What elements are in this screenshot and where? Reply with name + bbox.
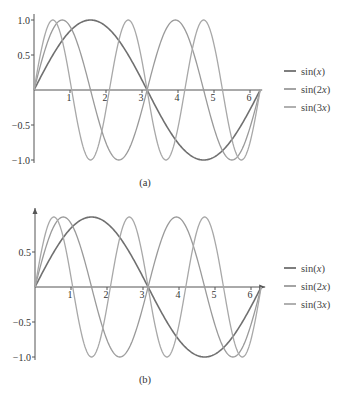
y-axis-arrow-icon — [33, 208, 38, 214]
legend-b: sin(x)sin(2x)sin(3x) — [284, 263, 331, 311]
legend-label: sin(x) — [301, 66, 325, 78]
x-tick-label: 2 — [104, 289, 109, 300]
y-tick-label: −0.5 — [13, 317, 31, 328]
x-tick-label: 3 — [140, 289, 145, 300]
y-tick-label: −0.5 — [12, 120, 30, 131]
legend-label: sin(x) — [301, 263, 325, 275]
y-tick-label: −1.0 — [12, 155, 30, 166]
chart-panel-b: 1234560.5−0.5−1.0 sin(x)sin(2x)sin(3x) (… — [13, 208, 331, 386]
caption-b: (b) — [139, 374, 152, 386]
x-tick-label: 4 — [175, 92, 180, 103]
x-tick-label: 6 — [247, 92, 252, 103]
x-tick-label: 1 — [68, 289, 73, 300]
x-tick-label: 4 — [176, 289, 181, 300]
x-tick-label: 6 — [248, 289, 253, 300]
legend-label: sin(2x) — [301, 84, 331, 96]
legend-label: sin(2x) — [301, 281, 331, 293]
y-tick-label: −1.0 — [13, 352, 31, 363]
legend-a: sin(x)sin(2x)sin(3x) — [284, 66, 331, 114]
legend-label: sin(3x) — [301, 299, 331, 311]
caption-a: (a) — [139, 177, 151, 189]
y-tick-label: 0.5 — [18, 50, 31, 61]
axes-b: 1234560.5−0.5−1.0 — [13, 208, 265, 363]
chart-figure: 1234561.00.5−0.5−1.0 sin(x)sin(2x)sin(3x… — [0, 0, 342, 397]
x-tick-label: 3 — [139, 92, 144, 103]
y-tick-label: 1.0 — [18, 15, 31, 26]
y-tick-label: 0.5 — [19, 247, 32, 258]
x-tick-label: 5 — [212, 289, 217, 300]
legend-label: sin(3x) — [301, 102, 331, 114]
x-tick-label: 5 — [211, 92, 216, 103]
chart-panel-a: 1234561.00.5−0.5−1.0 sin(x)sin(2x)sin(3x… — [12, 14, 331, 189]
x-tick-label: 2 — [103, 92, 108, 103]
x-tick-label: 1 — [67, 92, 72, 103]
